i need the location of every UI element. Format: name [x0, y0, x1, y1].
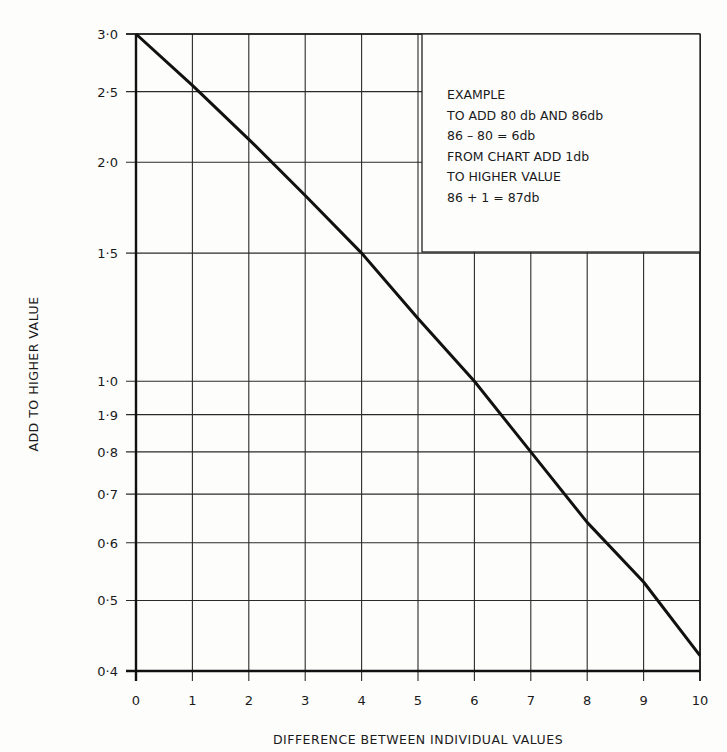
y-tick-label: 0·5 [97, 593, 118, 608]
y-tick-label: 0·8 [97, 445, 118, 460]
example-line: TO ADD 80 db AND 86db [446, 108, 603, 123]
x-tick-label: 1 [188, 693, 196, 708]
y-tick-label: 2·5 [97, 85, 118, 100]
x-axis-title: DIFFERENCE BETWEEN INDIVIDUAL VALUES [273, 732, 563, 747]
y-tick-label: 1·0 [97, 374, 118, 389]
example-line: 86 – 80 = 6db [447, 128, 535, 143]
y-tick-label: 0·7 [97, 487, 118, 502]
y-axis-tick-labels: 3·02·52·01·51·01·90·80·70·60·50·4 [97, 27, 118, 679]
x-tick-label: 7 [527, 693, 535, 708]
example-box [422, 34, 700, 252]
x-tick-label: 4 [357, 693, 365, 708]
x-axis-tick-labels: 012345678910 [132, 693, 708, 708]
y-tick-label: 2·0 [97, 155, 118, 170]
example-line: TO HIGHER VALUE [446, 169, 561, 184]
y-axis-title: ADD TO HIGHER VALUE [26, 296, 41, 451]
example-line: 86 + 1 = 87db [447, 190, 540, 205]
x-tick-label: 0 [132, 693, 140, 708]
y-tick-label: 1·5 [97, 246, 118, 261]
x-tick-label: 8 [583, 693, 591, 708]
x-tick-label: 3 [301, 693, 309, 708]
example-line: FROM CHART ADD 1db [447, 149, 589, 164]
x-tick-label: 2 [245, 693, 253, 708]
x-tick-label: 5 [414, 693, 422, 708]
example-line: EXAMPLE [447, 87, 505, 102]
x-tick-label: 10 [692, 693, 709, 708]
y-tick-label: 3·0 [97, 27, 118, 42]
y-tick-label: 1·9 [97, 408, 118, 423]
x-tick-label: 6 [470, 693, 478, 708]
y-tick-label: 0·4 [97, 664, 118, 679]
x-tick-label: 9 [639, 693, 647, 708]
y-tick-label: 0·6 [97, 536, 118, 551]
chart: 3·02·52·01·51·01·90·80·70·60·50·4 012345… [0, 0, 727, 752]
